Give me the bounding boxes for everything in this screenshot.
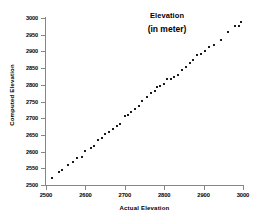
y-tick-label: 2700 <box>8 115 38 121</box>
data-point <box>185 66 187 68</box>
data-point <box>220 39 222 41</box>
data-point <box>72 161 74 163</box>
data-point <box>134 108 136 110</box>
data-point <box>150 92 152 94</box>
data-point <box>240 21 242 23</box>
y-tick <box>41 18 45 19</box>
data-point <box>108 131 110 133</box>
data-point <box>200 53 202 55</box>
x-tick-label: 3000 <box>228 192 257 199</box>
x-tick <box>46 186 47 190</box>
data-point <box>61 169 63 171</box>
data-point <box>159 85 161 87</box>
data-point <box>154 90 156 92</box>
x-tick <box>164 186 165 190</box>
y-tick-label: 2500 <box>8 182 38 188</box>
data-point <box>90 147 92 149</box>
data-point <box>76 157 78 159</box>
x-tick <box>204 186 205 190</box>
x-tick-label: 2800 <box>149 192 179 199</box>
y-tick-label: 2850 <box>8 65 38 71</box>
y-tick <box>41 102 45 103</box>
y-tick-label: 2950 <box>8 32 38 38</box>
y-tick-label: 2600 <box>8 149 38 155</box>
data-point <box>97 139 99 141</box>
data-point <box>67 164 69 166</box>
y-tick <box>41 51 45 52</box>
y-axis-title-wrap: Computed Elevation <box>0 0 16 190</box>
y-tick-label: 2800 <box>8 82 38 88</box>
data-point <box>93 145 95 147</box>
data-point <box>124 115 126 117</box>
y-tick-label: 2900 <box>8 48 38 54</box>
x-tick-label: 2700 <box>110 192 140 199</box>
y-tick-label: 3000 <box>8 15 38 21</box>
y-tick <box>41 85 45 86</box>
data-point <box>141 100 143 102</box>
data-point <box>238 25 240 27</box>
x-axis-title: Actual Elevation <box>46 205 243 211</box>
y-tick <box>41 168 45 169</box>
x-tick <box>125 186 126 190</box>
data-point <box>58 171 60 173</box>
x-axis-line <box>45 185 244 186</box>
x-tick <box>85 186 86 190</box>
data-point <box>116 125 118 127</box>
data-point <box>192 59 194 61</box>
scatter-chart: Elevation (in meter) Computed Elevation … <box>0 0 257 221</box>
x-tick-label: 2900 <box>189 192 219 199</box>
data-point <box>156 86 158 88</box>
data-point <box>119 123 121 125</box>
data-point <box>177 74 179 76</box>
data-point <box>204 50 206 52</box>
data-point <box>196 54 198 56</box>
data-point <box>130 111 132 113</box>
x-tick <box>243 186 244 190</box>
data-point <box>112 128 114 130</box>
data-point <box>227 31 229 33</box>
data-point <box>213 44 215 46</box>
y-tick <box>41 152 45 153</box>
data-point <box>166 78 168 80</box>
data-point <box>208 46 210 48</box>
x-tick-label: 2500 <box>31 192 61 199</box>
y-tick-label: 2750 <box>8 99 38 105</box>
data-point <box>84 150 86 152</box>
y-tick <box>41 68 45 69</box>
data-point <box>127 114 129 116</box>
y-tick <box>41 185 45 186</box>
y-tick-label: 2550 <box>8 165 38 171</box>
y-tick <box>41 35 45 36</box>
data-point <box>170 78 172 80</box>
data-point <box>181 69 183 71</box>
data-point <box>104 133 106 135</box>
data-point <box>234 25 236 27</box>
data-point <box>173 76 175 78</box>
data-point <box>138 105 140 107</box>
y-tick <box>41 135 45 136</box>
data-point <box>81 156 83 158</box>
y-tick-label: 2650 <box>8 132 38 138</box>
y-tick <box>41 118 45 119</box>
x-tick-label: 2600 <box>70 192 100 199</box>
data-point <box>146 96 148 98</box>
data-point <box>163 83 165 85</box>
data-point <box>189 62 191 64</box>
data-point <box>51 177 53 179</box>
data-point <box>101 137 103 139</box>
